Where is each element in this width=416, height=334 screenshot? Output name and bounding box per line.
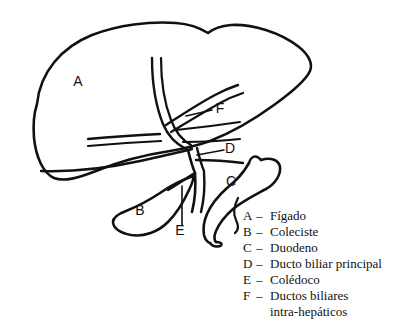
common-bile-duct-wall [201,172,204,212]
intrahepatic-duct-left-trunk-wall [161,58,191,145]
liver-outline [34,23,311,180]
duodenum-bulb-cap [249,156,261,163]
legend-text-f-continuation: intra-hepáticos [243,304,415,320]
main-bile-duct-label: D [225,140,235,156]
legend-item-c: C–Duodeno [243,240,415,256]
liver-label: A [73,73,83,89]
legend-text-e: Colédoco [270,272,320,288]
intrahepatic-ducts-label: F [216,100,225,116]
legend-dash-c: – [256,240,270,256]
legend-dash-d: – [256,256,270,272]
intrahepatic-duct-horizontal-branch [88,134,160,139]
legend-key-b: B [243,224,256,240]
legend-brace [234,198,238,233]
legend-dash-b: – [256,224,270,240]
legend-dash-e: – [256,272,270,288]
intrahepatic-duct-horizontal-branch-wall [88,141,161,146]
intrahepatic-duct-right-branch [166,85,238,125]
legend-text-b: Coleciste [270,224,318,240]
legend-item-b: B–Coleciste [243,224,415,240]
common-bile-duct-label: E [175,222,184,238]
duodenum-cut-end [210,242,222,246]
legend-key-c: C [243,240,256,256]
leader-line-d [197,150,224,155]
legend-key-d: D [243,256,256,272]
duodenum-upper-junction [196,160,243,163]
main-bile-duct [188,150,195,173]
legend-dash-a: – [256,208,270,224]
duodenum-label: C [226,173,236,189]
legend-key-e: E [243,272,256,288]
legend-item-a: A–Fígado [243,208,415,224]
gallbladder-label: B [135,202,144,218]
legend-text-c: Duodeno [270,240,318,256]
legend-key-list: A–Fígado B–Coleciste C–Duodeno D–Ducto b… [243,208,415,320]
legend-text-f: Ductos biliares [270,288,348,304]
legend-dash-f: – [256,288,270,304]
legend-item-e: E–Colédoco [243,272,415,288]
legend-key-f: F [243,288,256,304]
legend-item-f: F–Ductos biliares [243,288,415,304]
legend-text-a: Fígado [270,208,306,224]
legend-key-a: A [243,208,256,224]
legend-text-d: Ducto biliar principal [270,256,382,272]
legend-item-d: D–Ducto biliar principal [243,256,415,272]
